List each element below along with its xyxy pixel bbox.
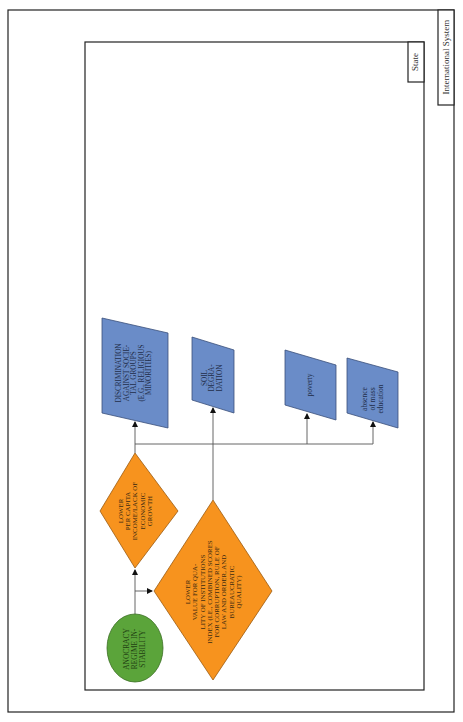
label-line: LITY OF INSTITUTIONS: [199, 540, 206, 643]
poverty-label: poverty: [300, 360, 320, 410]
international-system-label: International System: [439, 10, 455, 105]
label-line: GROWTH: [146, 482, 153, 540]
education-label: absence of mass education: [349, 373, 397, 425]
label-line: LOWER: [117, 482, 124, 540]
anocracy-label: ANOCRACY REGIME IN- STABILITY: [118, 619, 152, 679]
label-line: DATION: [217, 364, 225, 391]
label-line: ECONOMIC: [139, 482, 146, 540]
label-line: MINORITIES): [146, 343, 154, 402]
label-line: INCOME/LACK OF: [131, 482, 138, 540]
income-label: LOWER PER CAPITA INCOME/LACK OF ECONOMIC…: [110, 471, 160, 551]
discrimination-label: DISCRIMINATION AGAINST SOCIE- TAL GROUPS…: [107, 330, 163, 416]
label-line: FOR CORRUPTION, RULE OF: [213, 540, 220, 643]
state-label: State: [408, 42, 424, 82]
label-line: LAW AND ORDER, AND: [220, 540, 227, 643]
label-line: LOWER: [184, 540, 191, 643]
label-line: education: [377, 384, 385, 413]
soil-label: SOIL DEGRA- DATION: [195, 350, 231, 406]
label-line: QUALITY): [235, 540, 242, 643]
institutions-label: LOWER VALUE FOR QUA- LITY OF INSTITUTION…: [173, 537, 253, 647]
label-line: STABILITY: [139, 628, 147, 669]
label-line: VALUE FOR QUA-: [191, 540, 198, 643]
label-line: PER CAPITA: [124, 482, 131, 540]
label-line: INDEX (I.E., COMBINED SCORES: [206, 540, 213, 643]
diagram-canvas: International System State ANOCRACY REGI…: [0, 0, 463, 722]
label-line: BUREAUCRATIC: [228, 540, 235, 643]
label-line: poverty: [306, 374, 314, 397]
